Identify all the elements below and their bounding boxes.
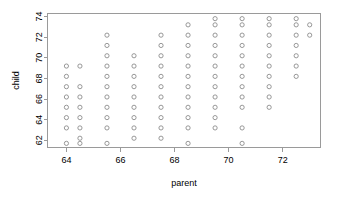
data-point (213, 54, 217, 58)
y-axis-title: child (11, 71, 21, 90)
data-point (78, 126, 82, 130)
data-point (78, 105, 82, 109)
data-point (105, 141, 109, 145)
data-point (294, 64, 298, 68)
data-point (132, 85, 136, 89)
data-point (308, 23, 312, 27)
y-tick-label: 68 (35, 73, 45, 83)
data-point (240, 141, 244, 145)
data-point (267, 54, 271, 58)
data-point (78, 141, 82, 145)
data-point (213, 105, 217, 109)
data-point (240, 85, 244, 89)
data-point (159, 33, 163, 37)
data-point (267, 64, 271, 68)
data-point (78, 85, 82, 89)
data-point (132, 74, 136, 78)
data-point (132, 116, 136, 120)
data-point (186, 74, 190, 78)
data-point (105, 95, 109, 99)
data-point (132, 126, 136, 130)
data-point (240, 17, 244, 21)
data-point (240, 64, 244, 68)
data-point (159, 74, 163, 78)
data-point (267, 43, 271, 47)
data-point (213, 126, 217, 130)
data-point (105, 126, 109, 130)
data-point (294, 54, 298, 58)
x-axis-title: parent (171, 178, 197, 188)
data-points-layer (64, 17, 311, 146)
data-point (186, 43, 190, 47)
data-point (213, 116, 217, 120)
data-point (186, 23, 190, 27)
plot-canvas: 646668707262646668707274parentchild (0, 0, 339, 206)
data-point (64, 74, 68, 78)
data-point (78, 136, 82, 140)
scatter-plot-figure: 646668707262646668707274parentchild (0, 0, 339, 206)
data-point (132, 54, 136, 58)
data-point (105, 43, 109, 47)
x-tick-label: 66 (115, 155, 125, 165)
data-point (186, 54, 190, 58)
data-point (267, 74, 271, 78)
data-point (64, 126, 68, 130)
x-tick-label: 68 (170, 155, 180, 165)
data-point (240, 54, 244, 58)
data-point (159, 136, 163, 140)
x-tick-label: 72 (278, 155, 288, 165)
data-point (105, 33, 109, 37)
x-tick-label: 70 (224, 155, 234, 165)
data-point (64, 64, 68, 68)
data-point (105, 116, 109, 120)
data-point (159, 64, 163, 68)
data-point (186, 141, 190, 145)
data-point (240, 43, 244, 47)
data-point (213, 43, 217, 47)
data-point (294, 33, 298, 37)
y-tick-label: 72 (35, 32, 45, 42)
data-point (267, 85, 271, 89)
data-point (186, 116, 190, 120)
data-point (267, 95, 271, 99)
data-point (64, 141, 68, 145)
data-point (132, 95, 136, 99)
data-point (64, 116, 68, 120)
data-point (213, 74, 217, 78)
data-point (159, 116, 163, 120)
data-point (213, 85, 217, 89)
data-point (294, 17, 298, 21)
y-tick-label: 62 (35, 135, 45, 145)
data-point (78, 116, 82, 120)
axis-layer (44, 14, 321, 152)
data-point (132, 136, 136, 140)
data-point (132, 105, 136, 109)
data-point (213, 64, 217, 68)
data-point (78, 64, 82, 68)
y-tick-label: 66 (35, 94, 45, 104)
data-point (213, 23, 217, 27)
data-point (294, 23, 298, 27)
data-point (213, 95, 217, 99)
data-point (105, 105, 109, 109)
data-point (186, 85, 190, 89)
data-point (267, 33, 271, 37)
data-point (105, 64, 109, 68)
data-point (159, 95, 163, 99)
y-tick-label: 70 (35, 53, 45, 63)
data-point (78, 95, 82, 99)
data-point (132, 64, 136, 68)
data-point (64, 95, 68, 99)
y-tick-label: 64 (35, 115, 45, 125)
data-point (240, 126, 244, 130)
x-tick-label: 64 (61, 155, 71, 165)
data-point (240, 23, 244, 27)
data-point (240, 74, 244, 78)
data-point (213, 17, 217, 21)
data-point (186, 105, 190, 109)
data-point (159, 43, 163, 47)
data-point (105, 85, 109, 89)
plot-frame (48, 14, 321, 148)
data-point (240, 105, 244, 109)
data-point (159, 126, 163, 130)
